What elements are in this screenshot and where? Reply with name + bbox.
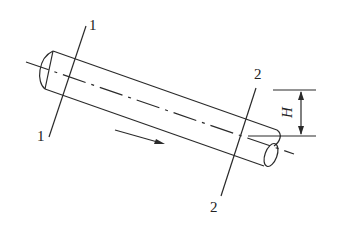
section-2-label-top: 2 bbox=[254, 66, 262, 82]
dimension-arrow-down-icon bbox=[298, 126, 304, 135]
section-1-line bbox=[49, 26, 86, 137]
dimension-arrow-up-icon bbox=[298, 91, 304, 100]
section-2-line bbox=[221, 88, 256, 196]
pipe-bottom-edge bbox=[45, 89, 264, 166]
dimension-label: H bbox=[279, 106, 295, 119]
flow-arrow-icon bbox=[154, 139, 165, 144]
section-1-label-top: 1 bbox=[89, 17, 97, 33]
section-2-label-bottom: 2 bbox=[210, 199, 218, 215]
pipe-right-cap bbox=[261, 142, 280, 169]
pipe-diagram: 1 1 2 2 H bbox=[0, 0, 341, 232]
pipe-top-edge bbox=[53, 51, 277, 130]
section-1-label-bottom: 1 bbox=[37, 128, 45, 144]
flow-arrow-line bbox=[115, 130, 161, 143]
